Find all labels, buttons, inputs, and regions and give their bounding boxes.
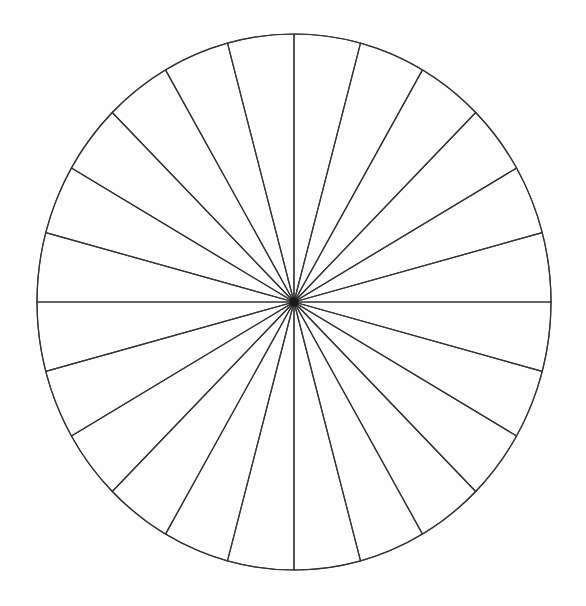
center-hub	[290, 298, 299, 307]
pie-sector[interactable]	[112, 70, 294, 302]
pie-sector[interactable]	[227, 34, 294, 302]
pie-sector[interactable]	[294, 113, 517, 303]
pie-sector[interactable]	[294, 302, 476, 534]
pie-sector[interactable]	[37, 302, 294, 371]
pie-sector[interactable]	[294, 233, 551, 302]
pie-sector[interactable]	[294, 302, 517, 492]
pie-sector[interactable]	[294, 70, 476, 302]
center-hub-dot	[290, 298, 299, 307]
fraction-circle-page	[0, 0, 586, 606]
fraction-circle-figure	[0, 0, 586, 606]
pie-sector[interactable]	[71, 302, 294, 492]
pie-sector[interactable]	[294, 302, 361, 570]
pie-sector[interactable]	[71, 113, 294, 303]
pie-sector[interactable]	[112, 302, 294, 534]
